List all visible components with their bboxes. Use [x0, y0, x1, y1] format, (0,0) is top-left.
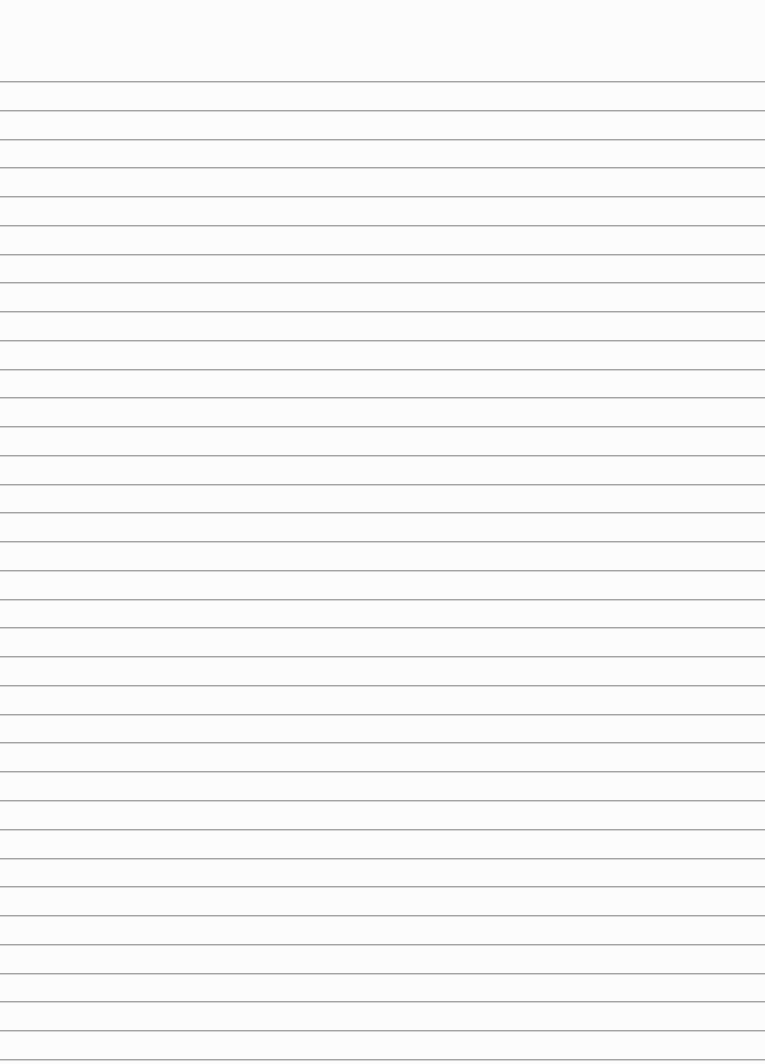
- ruled-line: [0, 369, 765, 370]
- ruled-line: [0, 771, 765, 772]
- ruled-line: [0, 1030, 765, 1031]
- ruled-line: [0, 1059, 765, 1060]
- ruled-line: [0, 512, 765, 513]
- ruled-line: [0, 742, 765, 743]
- ruled-line: [0, 254, 765, 255]
- ruled-line: [0, 426, 765, 427]
- lined-paper: [0, 0, 765, 1064]
- ruled-line: [0, 829, 765, 830]
- ruled-line: [0, 800, 765, 801]
- ruled-line: [0, 915, 765, 916]
- ruled-line: [0, 484, 765, 485]
- ruled-line: [0, 311, 765, 312]
- ruled-line: [0, 570, 765, 571]
- ruled-line: [0, 1001, 765, 1002]
- ruled-line: [0, 81, 765, 82]
- ruled-line: [0, 886, 765, 887]
- ruled-line: [0, 858, 765, 859]
- ruled-line: [0, 110, 765, 111]
- ruled-line: [0, 282, 765, 283]
- ruled-line: [0, 167, 765, 168]
- ruled-line: [0, 541, 765, 542]
- ruled-line: [0, 627, 765, 628]
- ruled-line: [0, 340, 765, 341]
- ruled-line: [0, 139, 765, 140]
- ruled-line: [0, 397, 765, 398]
- ruled-line: [0, 714, 765, 715]
- ruled-line: [0, 196, 765, 197]
- ruled-line: [0, 599, 765, 600]
- ruled-line: [0, 973, 765, 974]
- ruled-line: [0, 455, 765, 456]
- ruled-line: [0, 685, 765, 686]
- ruled-line: [0, 944, 765, 945]
- ruled-line: [0, 656, 765, 657]
- ruled-line: [0, 225, 765, 226]
